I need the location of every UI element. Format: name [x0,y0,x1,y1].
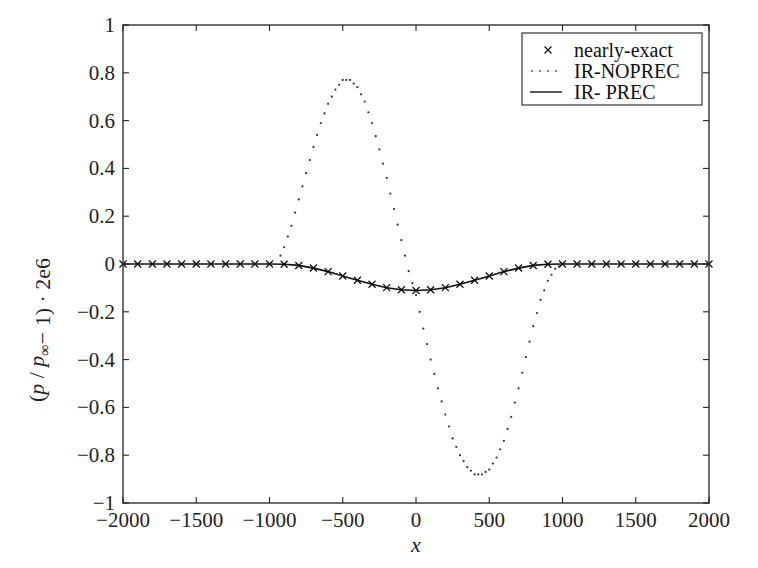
y-tick-label: −1 [93,491,115,515]
y-tick-label: −0.8 [77,443,115,467]
legend-label: IR-NOPREC [574,60,680,82]
y-tick-label: −0.4 [77,348,116,372]
x-tick-label: 1000 [542,508,584,532]
x-axis-title: x [410,532,421,557]
x-tick-label: 0 [411,508,422,532]
y-tick-label: 0.2 [89,204,115,228]
legend-label: nearly-exact [574,39,673,62]
x-tick-label: 1500 [615,508,657,532]
series-ir-prec [123,264,709,291]
x-tick-label: −500 [321,508,364,532]
plot-area [120,79,713,476]
legend: nearly-exactIR-NOPRECIR- PREC [522,33,702,105]
x-tick-label: 500 [474,508,506,532]
y-axis-title: (p / p∞− 1) · 2e6 [24,258,55,402]
dotted-line-icon [555,70,557,72]
y-tick-label: 0.6 [89,109,115,133]
x-tick-label: −1000 [243,508,297,532]
legend-label: IR- PREC [574,81,656,103]
y-tick-label: 0 [105,252,116,276]
chart: −2000−1500−1000−5000500100015002000 10.8… [0,0,758,568]
series-nearly-exact [120,261,713,295]
x-tick-label: 2000 [688,508,730,532]
y-tick-label: 0.8 [89,61,115,85]
x-tick-label: −1500 [169,508,223,532]
y-tick-label: −0.2 [77,300,115,324]
y-tick-label: 0.4 [89,156,116,180]
y-tick-label: 1 [105,13,116,37]
y-tick-label: −0.6 [77,395,115,419]
series-ir-noprec [279,79,560,476]
